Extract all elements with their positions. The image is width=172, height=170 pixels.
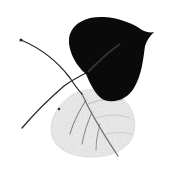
pale-leaf (51, 90, 135, 157)
dark-leaf (69, 17, 154, 101)
leaves-illustration (0, 0, 172, 170)
